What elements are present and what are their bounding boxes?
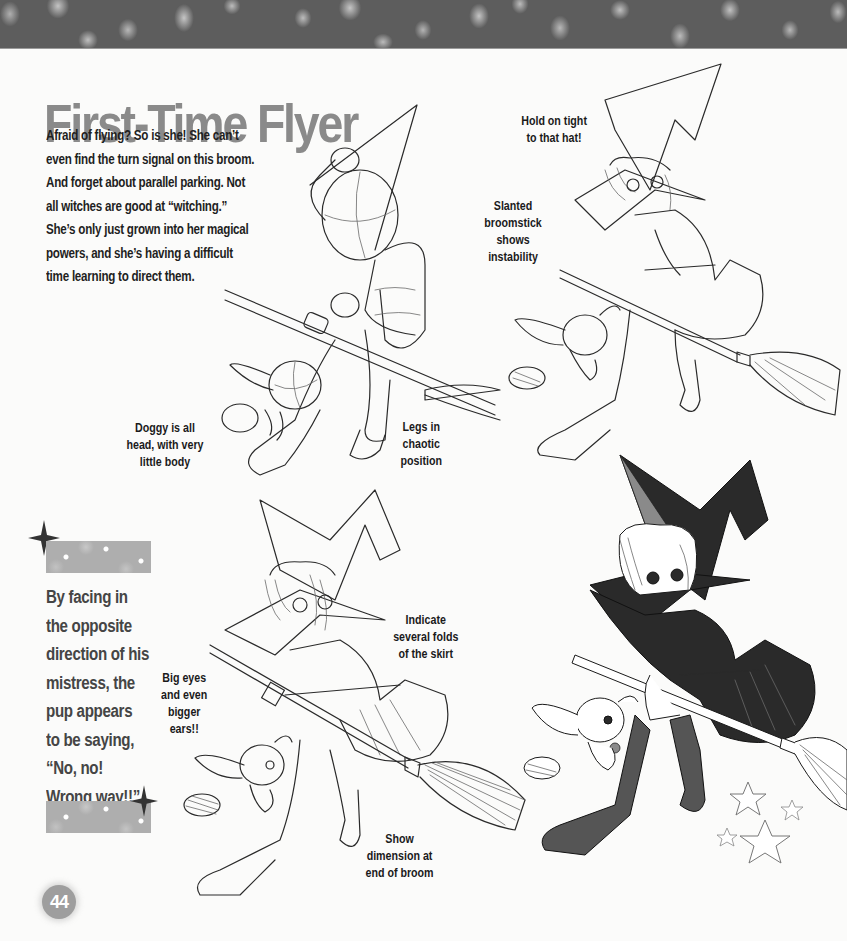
- sparkle-icon: [130, 785, 158, 817]
- tip-sidebar-text: By facing in the opposite direction of h…: [46, 583, 147, 811]
- page-number-badge: 44: [42, 885, 76, 919]
- annotation-slanted-broomstick: Slanted broomstick shows instability: [484, 197, 541, 265]
- decorative-bar-top: [46, 541, 151, 573]
- step4-finished-illustration: [520, 450, 847, 870]
- step1-skeleton-sketch: [225, 100, 505, 500]
- annotation-skirt-folds: Indicate several folds of the skirt: [393, 611, 458, 662]
- annotation-big-eyes: Big eyes and even bigger ears!!: [161, 669, 207, 737]
- step3-detailed-sketch: [180, 480, 530, 900]
- annotation-broom-dimension: Show dimension at end of broom: [365, 830, 433, 881]
- decorative-header-band: [0, 0, 847, 49]
- annotation-doggy-head: Doggy is all head, with very little body: [126, 419, 203, 470]
- annotation-legs-chaotic: Legs in chaotic position: [401, 418, 442, 469]
- annotation-hold-hat: Hold on tight to that hat!: [521, 112, 587, 146]
